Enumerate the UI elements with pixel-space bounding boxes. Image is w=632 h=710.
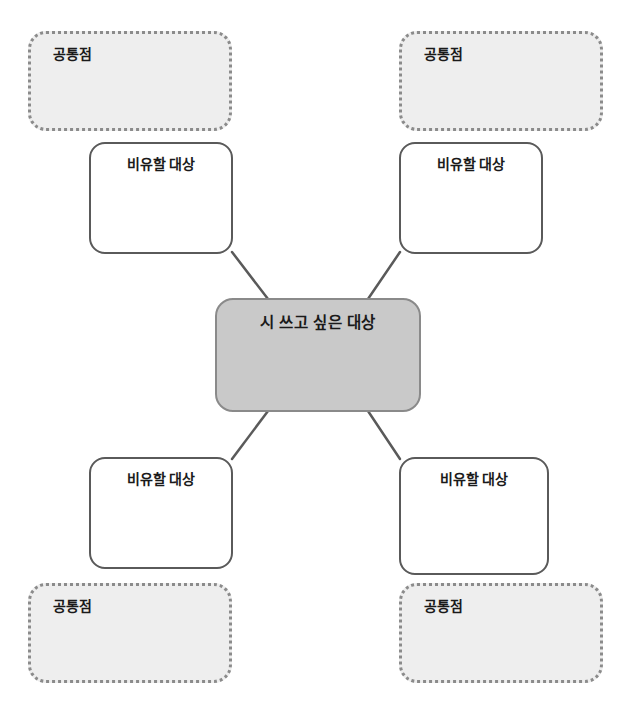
common-point-label-bottom-right: 공통점 (424, 598, 463, 615)
center-topic-box[interactable]: 시 쓰고 싶은 대상 (215, 298, 421, 412)
connector-top-right (368, 252, 400, 299)
metaphor-target-box-bottom-right[interactable]: 비유할 대상 (399, 457, 549, 575)
common-point-label-top-right: 공통점 (424, 46, 463, 63)
metaphor-target-label-bottom-right: 비유할 대상 (401, 471, 547, 488)
metaphor-target-label-top-right: 비유할 대상 (401, 156, 541, 173)
common-point-label-bottom-left: 공통점 (53, 598, 92, 615)
common-point-label-top-left: 공통점 (53, 46, 92, 63)
mind-map-diagram: 공통점 비유할 대상 공통점 비유할 대상 시 쓰고 싶은 대상 비유할 대상 … (0, 0, 632, 710)
center-topic-label: 시 쓰고 싶은 대상 (217, 314, 419, 333)
connector-bottom-left (232, 411, 268, 459)
metaphor-target-box-top-right[interactable]: 비유할 대상 (399, 142, 543, 254)
metaphor-target-box-bottom-left[interactable]: 비유할 대상 (89, 457, 233, 569)
common-point-box-bottom-left[interactable]: 공통점 (28, 583, 232, 683)
common-point-box-bottom-right[interactable]: 공통점 (399, 583, 603, 683)
connector-top-left (232, 252, 268, 299)
connector-bottom-right (368, 411, 400, 459)
common-point-box-top-right[interactable]: 공통점 (399, 31, 603, 131)
metaphor-target-label-bottom-left: 비유할 대상 (91, 471, 231, 488)
metaphor-target-label-top-left: 비유할 대상 (91, 156, 231, 173)
common-point-box-top-left[interactable]: 공통점 (28, 31, 232, 131)
metaphor-target-box-top-left[interactable]: 비유할 대상 (89, 142, 233, 254)
